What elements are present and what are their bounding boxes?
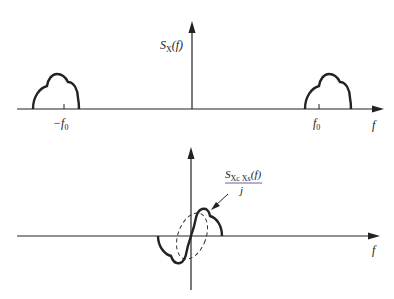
tick-label-f0: f0	[313, 116, 320, 132]
top-axes	[17, 21, 384, 113]
spectral-diagram	[0, 0, 394, 299]
tick-label-neg-f0: −f0	[53, 116, 68, 132]
top-x-axis-label: f	[372, 118, 375, 133]
left-spectrum-bump	[33, 74, 79, 109]
annotation-numerator: SXc Xs(f)	[225, 168, 261, 183]
top-y-axis-label: SX(f)	[160, 38, 183, 54]
bottom-x-axis-label: f	[372, 243, 375, 258]
right-spectrum-bump	[305, 74, 351, 109]
annotation-denominator: j	[240, 184, 243, 196]
bottom-axes	[17, 147, 380, 290]
